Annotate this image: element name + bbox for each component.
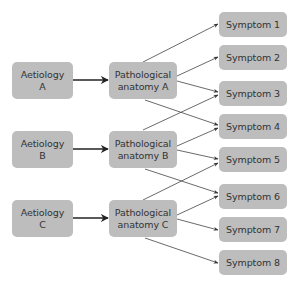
node-aetiology-a: Aetiology A bbox=[12, 62, 73, 99]
edge-patC-s8 bbox=[145, 238, 218, 263]
node-symptom-7: Symptom 7 bbox=[219, 217, 287, 242]
node-label: Symptom 3 bbox=[226, 88, 280, 100]
node-pathological-anatomy-c: Pathological anatomy C bbox=[109, 200, 177, 237]
node-label: Symptom 2 bbox=[226, 52, 280, 64]
node-label-line2: anatomy C bbox=[115, 219, 171, 231]
node-label: Symptom 7 bbox=[226, 224, 280, 236]
node-pathological-anatomy-b: Pathological anatomy B bbox=[109, 131, 177, 168]
node-symptom-8: Symptom 8 bbox=[219, 250, 287, 275]
node-label-line1: Aetiology bbox=[21, 138, 65, 150]
node-label: Symptom 1 bbox=[226, 19, 280, 31]
node-pathological-anatomy-a: Pathological anatomy A bbox=[109, 62, 177, 99]
node-symptom-6: Symptom 6 bbox=[219, 184, 287, 209]
node-symptom-2: Symptom 2 bbox=[219, 45, 287, 70]
node-label-line2: anatomy B bbox=[115, 150, 171, 162]
node-label-line2: B bbox=[21, 150, 65, 162]
node-label: Symptom 4 bbox=[226, 121, 280, 133]
node-label-line1: Pathological bbox=[115, 69, 171, 81]
node-label-line2: C bbox=[21, 219, 65, 231]
edge-patC-s7 bbox=[177, 219, 218, 230]
node-label-line1: Aetiology bbox=[21, 207, 65, 219]
edge-patA-s3 bbox=[177, 81, 218, 92]
edge-patB-s3 bbox=[143, 95, 218, 130]
node-label: Symptom 5 bbox=[226, 154, 280, 166]
node-label-line2: A bbox=[21, 81, 65, 93]
node-label-line1: Aetiology bbox=[21, 69, 65, 81]
node-aetiology-c: Aetiology C bbox=[12, 200, 73, 237]
node-label-line1: Pathological bbox=[115, 138, 171, 150]
node-label-line1: Pathological bbox=[115, 207, 171, 219]
edge-patB-s4 bbox=[177, 128, 218, 146]
edge-patA-s4 bbox=[145, 100, 218, 125]
edge-patB-s5 bbox=[177, 150, 218, 159]
edge-patA-s1 bbox=[143, 24, 218, 62]
node-symptom-4: Symptom 4 bbox=[219, 114, 287, 139]
node-label-line2: anatomy A bbox=[115, 81, 171, 93]
edge-patC-s6 bbox=[177, 196, 218, 215]
edge-patC-s5 bbox=[143, 163, 218, 200]
node-symptom-1: Symptom 1 bbox=[219, 12, 287, 37]
diagram-canvas: Aetiology A Aetiology B Aetiology C Path… bbox=[0, 0, 298, 283]
edge-patA-s2 bbox=[177, 57, 218, 76]
node-label: Symptom 8 bbox=[226, 257, 280, 269]
node-symptom-3: Symptom 3 bbox=[219, 81, 287, 106]
node-symptom-5: Symptom 5 bbox=[219, 147, 287, 172]
node-label: Symptom 6 bbox=[226, 191, 280, 203]
node-aetiology-b: Aetiology B bbox=[12, 131, 73, 168]
